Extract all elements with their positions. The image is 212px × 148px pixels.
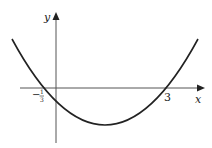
x-axis-label: x <box>195 93 202 106</box>
root-left-denominator: 3 <box>40 96 44 103</box>
root-right-label: 3 <box>164 91 171 104</box>
parabola-curve <box>12 39 198 125</box>
graph: y x 3 − 1 3 <box>0 0 212 148</box>
x-axis-arrow-icon <box>197 85 205 92</box>
y-axis-label: y <box>43 11 51 24</box>
y-axis-arrow-icon <box>53 12 60 20</box>
root-left-numerator: 1 <box>40 88 44 95</box>
